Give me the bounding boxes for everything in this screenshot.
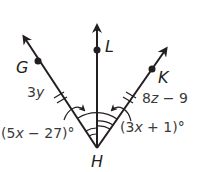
label-l: L bbox=[105, 37, 114, 56]
point-g-dot bbox=[35, 58, 42, 65]
ghl-open: (5 bbox=[1, 125, 15, 141]
gh-coef: 3 bbox=[27, 84, 36, 100]
segment-label-hk: 8z − 9 bbox=[142, 90, 188, 106]
angle-arc-lhk-inner-1 bbox=[97, 121, 113, 125]
angle-label-ghl: (5x − 27)° bbox=[1, 125, 75, 141]
point-l-dot bbox=[94, 47, 101, 54]
ghl-rest: − 27)° bbox=[24, 125, 75, 141]
angle-label-lhk: (3x + 1)° bbox=[120, 119, 185, 135]
label-h: H bbox=[91, 152, 103, 171]
gh-var: y bbox=[35, 84, 45, 100]
point-k-dot bbox=[149, 66, 156, 73]
hk-coef: 8 bbox=[142, 90, 151, 106]
label-k: K bbox=[158, 68, 170, 87]
angle-arc-ghl-inner-1 bbox=[86, 128, 97, 131]
angle-diagram: G L K H 3y 8z − 9 (5x − 27)° (3x + 1)° bbox=[0, 0, 201, 172]
lhk-rest: + 1)° bbox=[143, 119, 185, 135]
tick-marks-gh bbox=[54, 92, 67, 103]
angle-arc-ghl-inner-2 bbox=[89, 134, 97, 136]
label-g: G bbox=[16, 58, 28, 77]
lhk-open: (3 bbox=[120, 119, 134, 135]
angle-arc-lhk-inner-2 bbox=[97, 126, 110, 129]
segment-label-gh: 3y bbox=[27, 84, 45, 100]
hk-rest: − 9 bbox=[158, 90, 188, 106]
diagram-svg: G L K H 3y 8z − 9 (5x − 27)° (3x + 1)° bbox=[0, 0, 201, 172]
